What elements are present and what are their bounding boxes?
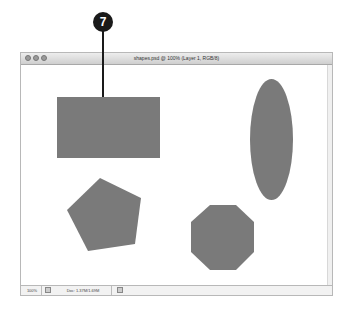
polygon-shapes: [0, 0, 352, 314]
pentagon-shape[interactable]: [67, 178, 141, 251]
callout-leader-line: [102, 31, 104, 97]
octagon-shape[interactable]: [191, 205, 254, 270]
callout-badge: 7: [93, 12, 113, 32]
